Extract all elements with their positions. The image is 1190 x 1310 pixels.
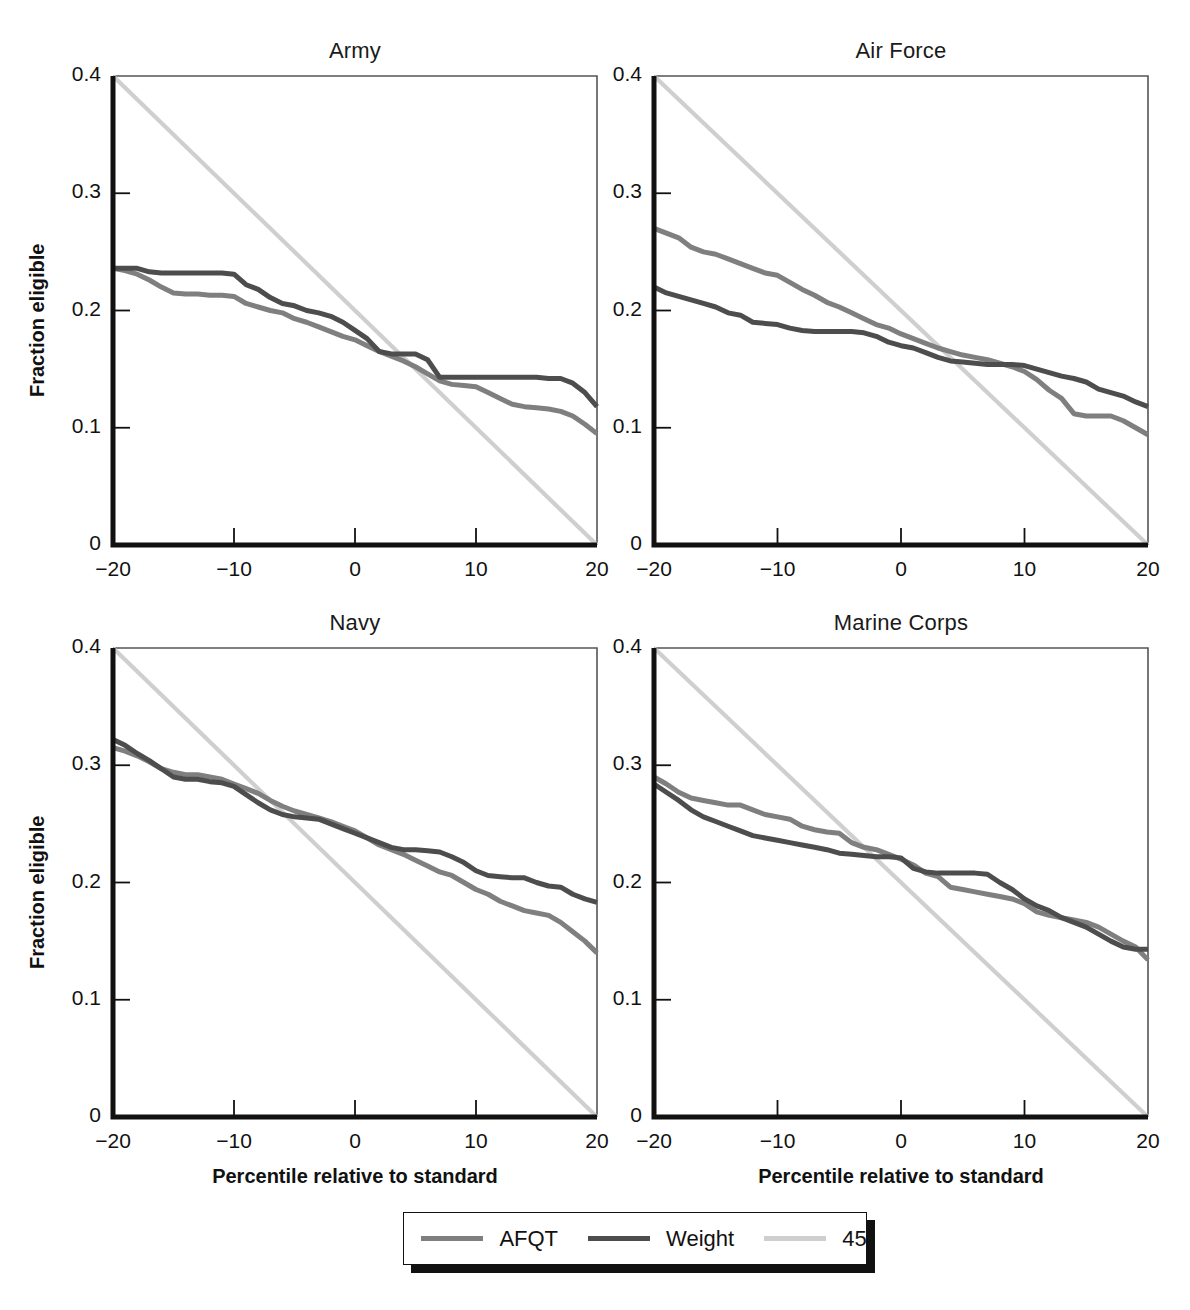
x-tick-label: 10: [426, 1129, 526, 1153]
panel-title-army: Army: [113, 38, 597, 64]
legend-items: AFQTWeight45: [404, 1213, 866, 1264]
series-line-45: [654, 648, 1148, 1117]
series-line-afqt: [654, 228, 1148, 434]
plot-area-marine-corps: [640, 634, 1162, 1131]
series-line-weight: [654, 287, 1148, 407]
y-tick-label: 0.3: [17, 179, 101, 203]
y-tick-label: 0.2: [558, 869, 642, 893]
legend: AFQTWeight45: [403, 1212, 867, 1265]
x-tick-label: 20: [1098, 557, 1190, 581]
legend-label: AFQT: [499, 1226, 558, 1252]
legend-line-swatch-afqt: [421, 1236, 483, 1241]
x-axis-label: Percentile relative to standard: [113, 1165, 597, 1188]
x-tick-label: 10: [975, 1129, 1075, 1153]
y-tick-label: 0: [17, 531, 101, 555]
x-tick-label: −20: [63, 557, 163, 581]
panel-title-air-force: Air Force: [654, 38, 1148, 64]
x-tick-label: 20: [1098, 1129, 1190, 1153]
panel-title-marine-corps: Marine Corps: [654, 610, 1148, 636]
series-line-weight: [113, 739, 597, 902]
series-line-afqt: [113, 268, 597, 433]
y-tick-label: 0.4: [558, 62, 642, 86]
y-tick-label: 0: [17, 1103, 101, 1127]
plot-area-navy: [99, 634, 611, 1131]
x-tick-label: 0: [851, 1129, 951, 1153]
plot-area-army: [99, 62, 611, 559]
series-line-45: [113, 648, 597, 1117]
x-tick-label: −20: [63, 1129, 163, 1153]
legend-label: Weight: [666, 1226, 734, 1252]
x-tick-label: 0: [305, 557, 405, 581]
y-tick-label: 0.1: [558, 414, 642, 438]
y-tick-label: 0: [558, 531, 642, 555]
panel-title-navy: Navy: [113, 610, 597, 636]
series-line-weight: [654, 784, 1148, 949]
y-tick-label: 0.1: [17, 986, 101, 1010]
y-tick-label: 0.4: [558, 634, 642, 658]
y-tick-label: 0.4: [17, 62, 101, 86]
y-tick-label: 0.3: [17, 751, 101, 775]
figure-canvas: Army00.10.20.30.4−20−1001020Fraction eli…: [0, 0, 1190, 1310]
y-tick-label: 0: [558, 1103, 642, 1127]
legend-item-afqt[interactable]: AFQT: [421, 1226, 558, 1252]
x-tick-label: −20: [604, 557, 704, 581]
x-tick-label: −10: [728, 557, 828, 581]
series-line-45: [113, 76, 597, 545]
plot-area-air-force: [640, 62, 1162, 559]
y-axis-label: Fraction eligible: [26, 815, 49, 968]
y-tick-label: 0.1: [558, 986, 642, 1010]
x-axis-label: Percentile relative to standard: [654, 1165, 1148, 1188]
legend-label: 45: [842, 1226, 866, 1252]
y-tick-label: 0.3: [558, 179, 642, 203]
series-line-afqt: [654, 777, 1148, 960]
axis-ticks: [654, 193, 1025, 545]
legend-line-swatch-45: [764, 1236, 826, 1241]
x-tick-label: −10: [184, 557, 284, 581]
legend-item-weight[interactable]: Weight: [588, 1226, 734, 1252]
y-axis-label: Fraction eligible: [26, 243, 49, 396]
x-tick-label: 10: [975, 557, 1075, 581]
legend-item-45[interactable]: 45: [764, 1226, 866, 1252]
legend-line-swatch-weight: [588, 1236, 650, 1241]
x-tick-label: 0: [851, 557, 951, 581]
y-tick-label: 0.3: [558, 751, 642, 775]
x-tick-label: 0: [305, 1129, 405, 1153]
x-tick-label: 10: [426, 557, 526, 581]
x-tick-label: −10: [728, 1129, 828, 1153]
y-tick-label: 0.4: [17, 634, 101, 658]
y-tick-label: 0.2: [558, 297, 642, 321]
x-tick-label: −10: [184, 1129, 284, 1153]
y-tick-label: 0.1: [17, 414, 101, 438]
x-tick-label: −20: [604, 1129, 704, 1153]
